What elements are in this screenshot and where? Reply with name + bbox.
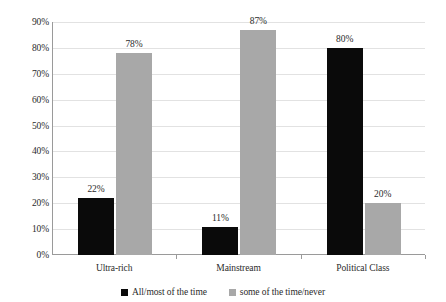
x-axis-category-label: Political Class [283,262,443,274]
legend-label: All/most of the time [132,286,207,298]
y-axis-tick-label: 20% [3,198,49,208]
bar[interactable]: 78% [116,53,152,255]
bar-value-label: 20% [358,189,408,200]
bar-value-label: 80% [320,34,370,45]
bar[interactable]: 22% [78,198,114,255]
y-axis-tick-label: 60% [3,95,49,105]
y-axis-tick-labels: 90%80%70%60%50%40%30%20%10%0% [0,0,49,302]
bar-group: 11%87% [177,22,301,255]
bar[interactable]: 11% [202,227,238,255]
bar-groups: 22%78%11%87%80%20% [53,22,425,255]
bar-group: 22%78% [53,22,177,255]
x-axis-tick [176,255,177,259]
y-axis-tick-label: 0% [3,250,49,260]
bar-value-label: 78% [109,39,159,50]
y-axis-tick-label: 10% [3,224,49,234]
y-axis-tick-label: 30% [3,172,49,182]
bar-value-label: 11% [195,213,245,224]
y-axis-tick-label: 40% [3,146,49,156]
bar-value-label: 87% [233,16,283,27]
bar[interactable]: 20% [365,203,401,255]
y-axis-tick-label: 90% [3,17,49,27]
legend-item[interactable]: some of the time/never [229,286,325,298]
bar[interactable]: 80% [327,48,363,255]
chart-legend: All/most of the timesome of the time/nev… [0,286,446,298]
bar-chart: 90%80%70%60%50%40%30%20%10%0% 22%78%11%8… [0,0,446,302]
legend-swatch-icon [121,289,128,296]
bar-group: 80%20% [302,22,426,255]
bar[interactable]: 87% [240,30,276,255]
legend-item[interactable]: All/most of the time [121,286,207,298]
bar-value-label: 22% [71,184,121,195]
x-axis-tick [425,255,426,259]
y-axis-tick-label: 70% [3,69,49,79]
y-axis-tick-label: 80% [3,43,49,53]
legend-label: some of the time/never [240,286,325,298]
legend-swatch-icon [229,289,236,296]
x-axis-tick [301,255,302,259]
y-axis-tick-label: 50% [3,121,49,131]
